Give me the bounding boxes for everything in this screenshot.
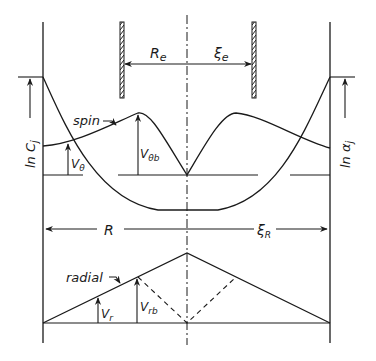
vortex-profile-diagram: Re ξe ln Cj ln αj Vθ Vθb spin R ξR Vr Vr… bbox=[0, 0, 376, 361]
ln-alpha-label: ln αj bbox=[338, 140, 355, 168]
v-rb-label: Vrb bbox=[140, 300, 158, 316]
r-label: R bbox=[104, 222, 114, 238]
v-r-label: Vr bbox=[101, 307, 114, 323]
radial-label: radial bbox=[66, 270, 103, 285]
re-label: Re bbox=[150, 45, 167, 64]
xi-r-label: ξR bbox=[256, 222, 271, 240]
spin-label: spin bbox=[73, 113, 100, 128]
v-theta-label: Vθ bbox=[71, 157, 85, 173]
radial-leader bbox=[109, 277, 120, 283]
xi-e-label: ξe bbox=[213, 45, 229, 64]
ln-cj-label: ln Cj bbox=[23, 140, 40, 168]
v-theta-b-label: Vθb bbox=[140, 147, 160, 163]
left-wall bbox=[120, 22, 124, 98]
right-wall bbox=[252, 22, 256, 98]
